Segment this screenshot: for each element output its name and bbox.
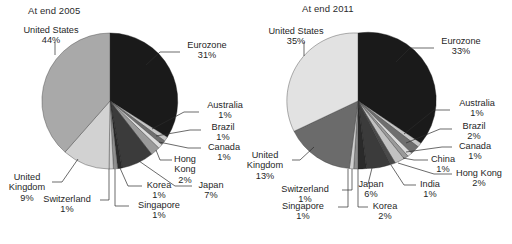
label-japan-name: Japan	[198, 180, 223, 190]
label-australia: Australia 1%	[196, 100, 254, 121]
label-brazil-name: Brazil	[463, 121, 486, 131]
label-eurozone: Eurozone 31%	[176, 40, 238, 61]
label-hong-kong: Hong Kong 2%	[446, 168, 512, 189]
label-japan: Japan 7%	[190, 180, 232, 201]
label-brazil: Brazil 2%	[451, 121, 497, 142]
label-singapore-name: Singapore	[138, 200, 180, 210]
label-canada-name: Canada	[459, 141, 491, 151]
label-china-name: China	[431, 154, 455, 164]
label-switzerland: Switzerland 1%	[268, 184, 342, 205]
label-australia: Australia 1%	[448, 98, 506, 119]
label-singapore: Singapore 1%	[126, 200, 192, 221]
label-hong-kong-pct: 2%	[446, 178, 512, 188]
label-switzerland-pct: 1%	[30, 204, 104, 214]
label-united-kingdom-line2: Kingdom	[238, 160, 292, 170]
label-united-kingdom-pct: 13%	[238, 171, 292, 181]
label-india-name: India	[420, 179, 440, 189]
label-united-kingdom: United Kingdom 9%	[0, 172, 54, 203]
label-korea: Korea 2%	[364, 201, 406, 222]
pie-slices-2005	[42, 33, 178, 169]
label-hong-kong-name: Hong Kong	[456, 168, 502, 178]
label-korea: Korea 1%	[138, 180, 180, 201]
label-singapore-pct: 1%	[126, 210, 192, 220]
pie-chart-panel-2011: At end 2011	[256, 0, 512, 244]
label-korea-name: Korea	[147, 180, 172, 190]
label-united-kingdom-line1: United	[252, 150, 279, 160]
label-united-states: United States 35%	[248, 26, 344, 47]
label-australia-pct: 1%	[448, 108, 506, 118]
leader-united-kingdom	[52, 159, 78, 182]
two-pie-chart-figure: At end 2005	[0, 0, 512, 244]
label-united-states-pct: 44%	[2, 35, 100, 45]
label-japan-name: Japan	[358, 179, 383, 189]
label-united-kingdom-pct: 9%	[0, 193, 54, 203]
label-switzerland-pct: 1%	[268, 194, 342, 204]
label-australia-name: Australia	[459, 98, 495, 108]
label-united-states: United States 44%	[2, 25, 100, 46]
label-united-states-name: United States	[23, 25, 78, 35]
label-united-kingdom: United Kingdom 13%	[238, 150, 292, 181]
label-canada-name: Canada	[208, 142, 240, 152]
label-japan: Japan 6%	[350, 179, 392, 200]
label-japan-pct: 6%	[350, 189, 392, 199]
label-india-pct: 1%	[410, 189, 450, 199]
label-brazil: Brazil 1%	[200, 122, 246, 143]
leader-canada	[159, 142, 201, 148]
label-eurozone: Eurozone 33%	[430, 36, 492, 57]
label-japan-pct: 7%	[190, 190, 232, 200]
label-hong-kong-line2: Kong	[166, 164, 204, 174]
pie-chart-panel-2005: At end 2005	[0, 0, 256, 244]
label-eurozone-pct: 33%	[430, 46, 492, 56]
label-australia-name: Australia	[207, 100, 243, 110]
label-united-kingdom-line1: United	[14, 172, 41, 182]
label-eurozone-name: Eurozone	[441, 36, 480, 46]
label-korea-pct: 2%	[364, 211, 406, 221]
label-united-states-name: United States	[268, 26, 323, 36]
label-eurozone-pct: 31%	[176, 50, 238, 60]
label-singapore-pct: 1%	[270, 211, 336, 221]
label-india: India 1%	[410, 179, 450, 200]
label-united-kingdom-line2: Kingdom	[0, 182, 54, 192]
label-hong-kong-line1: Hong	[174, 154, 196, 164]
label-korea-name: Korea	[373, 201, 398, 211]
label-australia-pct: 1%	[196, 110, 254, 120]
label-switzerland-name: Switzerland	[281, 184, 329, 194]
pie-slices-2011	[287, 32, 436, 169]
label-united-states-pct: 35%	[248, 36, 344, 46]
label-brazil-name: Brazil	[212, 122, 235, 132]
label-eurozone-name: Eurozone	[187, 40, 226, 50]
